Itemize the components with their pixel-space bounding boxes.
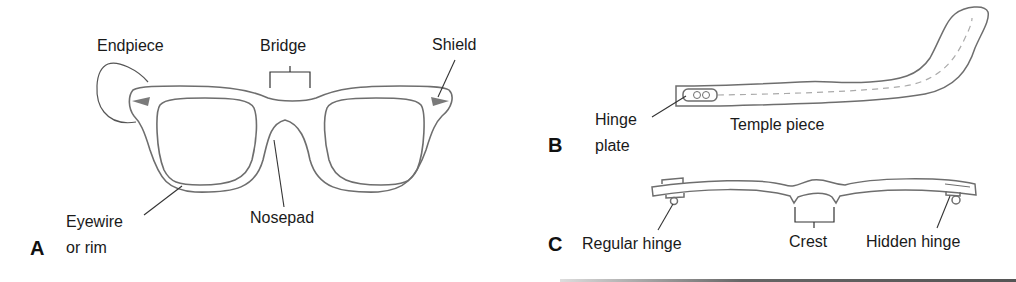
panel-letter-b: B: [548, 134, 562, 157]
label-eyewire-rim: or rim: [66, 238, 107, 257]
label-shield: Shield: [432, 35, 476, 54]
bridge-bracket: [270, 66, 310, 88]
label-crest: Crest: [789, 232, 827, 251]
regular-hinge-barrel: [671, 198, 678, 205]
frame-outline: [129, 86, 452, 192]
label-temple-piece: Temple piece: [730, 115, 824, 134]
frame-top-drawing: [652, 178, 976, 205]
hidden-hinge-barrel: [952, 196, 960, 204]
label-hinge-plate: plate: [595, 136, 630, 155]
panel-letter-c: C: [548, 233, 562, 256]
shield-left-marker: [132, 97, 150, 106]
crest-bracket: [795, 207, 834, 228]
glasses-front-drawing: [97, 63, 452, 192]
label-eyewire: Eyewire: [66, 212, 123, 231]
label-regular-hinge: Regular hinge: [582, 234, 682, 253]
right-lens: [325, 98, 425, 185]
temple-outline: [676, 7, 988, 106]
label-bridge: Bridge: [260, 36, 306, 55]
hinge-screw-2: [703, 92, 710, 99]
temple-piece-drawing: [676, 7, 988, 106]
frame-top-outline: [652, 179, 976, 203]
panel-letter-a: A: [30, 237, 44, 260]
shield-right-marker: [431, 97, 449, 106]
hidden-hinge-slot: [945, 184, 970, 187]
left-lens: [157, 98, 257, 185]
leader-lines-c: [658, 196, 950, 230]
hinge-screw-1: [694, 92, 701, 99]
label-hinge: Hinge: [595, 110, 637, 129]
endpiece-loop: [97, 63, 148, 123]
label-endpiece: Endpiece: [97, 36, 164, 55]
label-hidden-hinge: Hidden hinge: [866, 232, 960, 251]
label-nosepad: Nosepad: [250, 208, 314, 227]
